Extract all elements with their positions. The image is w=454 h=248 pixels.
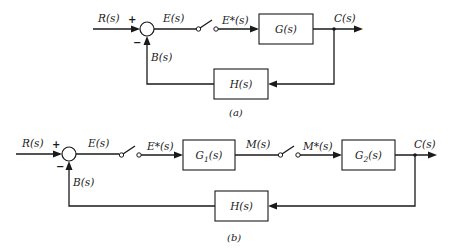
intermediate-label-b: M(s) bbox=[245, 138, 270, 150]
summing-junction-b bbox=[62, 147, 76, 161]
minus-sign-b: − bbox=[56, 161, 64, 172]
arrow-icon bbox=[144, 36, 151, 45]
caption-b: (b) bbox=[227, 232, 241, 243]
sampled-intermediate-label-b: M*(s) bbox=[302, 140, 333, 152]
feedback-signal-label-b: B(s) bbox=[72, 176, 94, 188]
output-label-b: C(s) bbox=[414, 138, 436, 150]
sampled-error-label-b: E*(s) bbox=[146, 140, 174, 152]
sampled-error-label-a: E*(s) bbox=[221, 14, 249, 26]
summing-junction-a bbox=[140, 22, 154, 36]
error-label-b: E(s) bbox=[87, 137, 109, 149]
minus-sign-a: − bbox=[133, 37, 141, 48]
arrow-icon bbox=[53, 151, 62, 158]
input-label-a: R(s) bbox=[97, 12, 120, 24]
input-label-b: R(s) bbox=[21, 137, 44, 149]
plus-sign-a: + bbox=[128, 14, 136, 25]
arrow-icon bbox=[268, 203, 277, 210]
output-label-a: C(s) bbox=[334, 12, 356, 24]
diagram-b: R(s) + − E(s) E*(s) G1(s) M(s) bbox=[16, 137, 437, 243]
sampler-switch-b2 bbox=[278, 146, 300, 157]
plus-sign-b: + bbox=[52, 139, 60, 150]
sampler-switch-a bbox=[196, 20, 218, 31]
forward-block-label-a: G(s) bbox=[275, 23, 297, 35]
arrow-icon bbox=[66, 161, 73, 170]
arrow-icon bbox=[250, 26, 259, 33]
arrow-icon bbox=[333, 152, 342, 159]
feedback-signal-label-a: B(s) bbox=[150, 51, 172, 63]
caption-a: (a) bbox=[229, 107, 243, 118]
arrow-icon bbox=[354, 26, 363, 33]
sampler-switch-b1 bbox=[119, 146, 141, 157]
block-diagrams: R(s) + − E(s) E*(s) G(s) C(s) H(s) bbox=[0, 0, 454, 248]
arrow-icon bbox=[131, 26, 140, 33]
arrow-icon bbox=[428, 152, 437, 159]
diagram-a: R(s) + − E(s) E*(s) G(s) C(s) H(s) bbox=[93, 12, 363, 118]
feedback-block-label-b: H(s) bbox=[229, 200, 253, 212]
error-label-a: E(s) bbox=[162, 12, 184, 24]
arrow-icon bbox=[268, 81, 277, 88]
feedback-block-label-a: H(s) bbox=[229, 78, 253, 90]
arrow-icon bbox=[174, 152, 183, 159]
